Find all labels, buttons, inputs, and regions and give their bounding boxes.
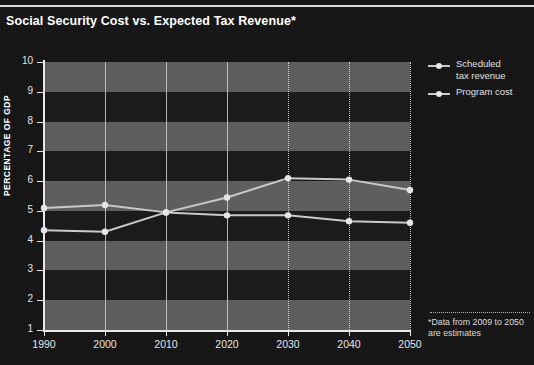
x-tick-label: 1990 <box>32 338 55 350</box>
x-tick <box>410 330 411 336</box>
vertical-gridline <box>105 62 106 330</box>
footnote-divider <box>430 312 530 313</box>
y-tick: 1 <box>37 330 44 331</box>
vertical-gridline <box>349 62 350 330</box>
y-tick: 5 <box>37 211 44 212</box>
vertical-gridline <box>410 62 411 330</box>
y-tick: 7 <box>37 151 44 152</box>
footnote: *Data from 2009 to 2050 are estimates <box>428 317 534 339</box>
y-tick-label: 9 <box>27 85 33 96</box>
chart-figure: Social Security Cost vs. Expected Tax Re… <box>0 0 534 365</box>
chart-title: Social Security Cost vs. Expected Tax Re… <box>6 14 296 28</box>
legend: Scheduled tax revenue Program cost <box>428 58 532 103</box>
y-tick: 2 <box>37 300 44 301</box>
y-tick-label: 4 <box>27 234 33 245</box>
x-tick <box>166 330 167 336</box>
legend-label-line2: tax revenue <box>456 70 532 82</box>
y-tick-label: 3 <box>27 263 33 274</box>
legend-marker-icon <box>428 90 450 97</box>
y-tick-label: 1 <box>27 323 33 334</box>
x-tick-label: 2030 <box>276 338 299 350</box>
legend-label-line1: Program cost <box>456 86 532 98</box>
x-tick <box>105 330 106 336</box>
y-tick-label: 10 <box>22 55 33 66</box>
y-axis-title: PERCENTAGE OF GDP <box>2 95 12 196</box>
header-rule <box>0 5 534 7</box>
y-tick-label: 6 <box>27 174 33 185</box>
y-tick-label: 2 <box>27 293 33 304</box>
y-tick: 9 <box>37 92 44 93</box>
x-tick-label: 2010 <box>154 338 177 350</box>
x-tick <box>288 330 289 336</box>
y-tick-label: 7 <box>27 144 33 155</box>
y-tick: 4 <box>37 241 44 242</box>
x-tick-label: 2000 <box>93 338 116 350</box>
legend-marker-icon <box>428 62 450 69</box>
y-tick-label: 5 <box>27 204 33 215</box>
y-tick: 3 <box>37 270 44 271</box>
y-tick: 10 <box>37 62 44 63</box>
footnote-line1: *Data from 2009 to 2050 <box>428 317 524 327</box>
vertical-gridline <box>288 62 289 330</box>
x-tick <box>349 330 350 336</box>
footnote-line2: are estimates <box>428 328 481 338</box>
legend-label-line1: Scheduled <box>456 58 532 70</box>
plot-area <box>44 62 410 330</box>
x-tick <box>227 330 228 336</box>
legend-item-program-cost[interactable]: Program cost <box>428 86 532 99</box>
y-tick: 6 <box>37 181 44 182</box>
y-tick: 8 <box>37 122 44 123</box>
legend-item-scheduled-tax-revenue[interactable]: Scheduled tax revenue <box>428 58 532 82</box>
x-tick-label: 2020 <box>215 338 238 350</box>
x-tick-label: 2040 <box>337 338 360 350</box>
vertical-gridline <box>166 62 167 330</box>
vertical-gridline <box>227 62 228 330</box>
y-axis-line <box>43 60 45 332</box>
y-tick-label: 8 <box>27 115 33 126</box>
x-tick <box>44 330 45 336</box>
x-tick-label: 2050 <box>398 338 421 350</box>
